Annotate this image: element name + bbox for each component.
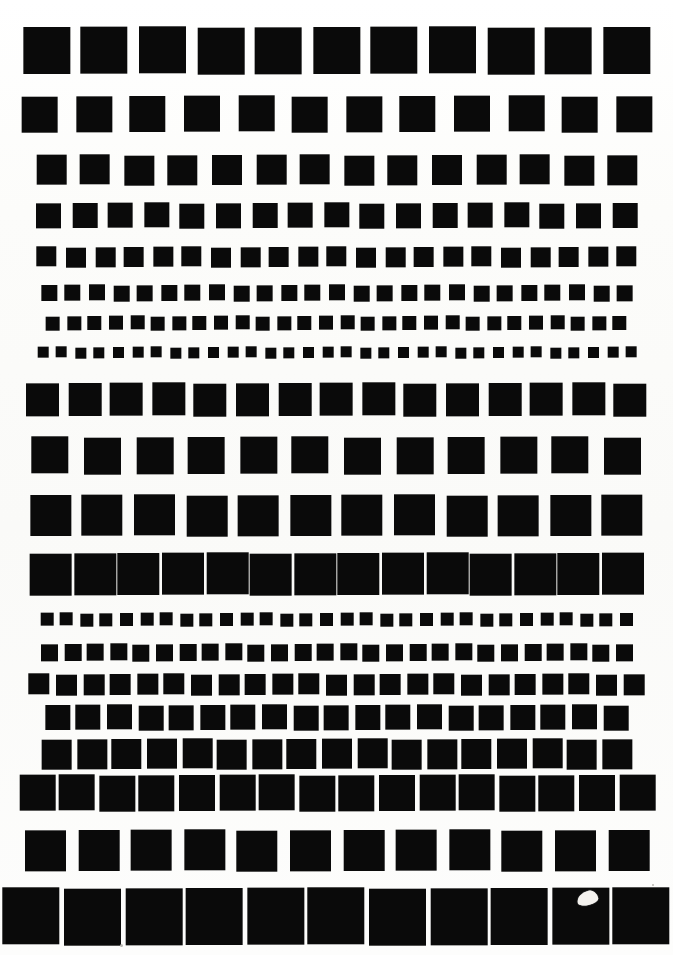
patch — [579, 775, 615, 811]
patch — [448, 437, 485, 474]
patch — [454, 96, 490, 132]
patch — [561, 97, 597, 133]
patch — [612, 316, 626, 330]
patch — [338, 775, 374, 811]
patch — [326, 246, 346, 266]
patch — [230, 705, 255, 730]
patch — [113, 286, 129, 302]
patch — [353, 286, 369, 302]
patch — [291, 97, 327, 133]
patch — [473, 347, 484, 358]
patch — [499, 613, 512, 626]
patch-row — [0, 316, 673, 330]
patch — [530, 346, 541, 357]
patch — [592, 316, 606, 330]
patch-row — [0, 888, 673, 945]
patch — [151, 317, 165, 331]
patch — [616, 644, 633, 661]
patch — [188, 347, 199, 358]
patch — [432, 155, 462, 185]
patch — [19, 775, 55, 811]
patch — [378, 347, 389, 358]
patch — [555, 830, 596, 871]
patch — [329, 284, 345, 300]
patch — [538, 775, 574, 811]
patch — [212, 155, 242, 185]
patch — [132, 347, 143, 358]
patch — [181, 246, 201, 266]
patch — [29, 554, 71, 596]
patch — [126, 888, 183, 945]
patch — [220, 613, 233, 626]
patch — [419, 775, 455, 811]
patch — [30, 495, 71, 536]
patch — [279, 383, 312, 416]
patch — [169, 705, 194, 730]
patch — [496, 285, 512, 301]
patch — [74, 553, 116, 595]
patch — [395, 830, 436, 871]
patch — [539, 204, 564, 229]
patch — [58, 774, 94, 810]
patch — [369, 889, 426, 946]
patch — [466, 317, 480, 331]
patch — [84, 674, 105, 695]
patch — [137, 674, 158, 695]
patch — [568, 673, 589, 694]
patch — [379, 775, 415, 811]
patch — [136, 285, 152, 301]
patch — [449, 706, 474, 731]
patch — [501, 248, 521, 268]
patch — [180, 614, 193, 627]
patch — [471, 246, 491, 266]
patch — [153, 247, 173, 267]
patch — [473, 286, 489, 302]
patch — [576, 203, 601, 228]
patch — [163, 673, 184, 694]
patch — [316, 644, 333, 661]
patch — [447, 496, 488, 537]
patch-row — [0, 705, 673, 730]
patch — [179, 644, 196, 661]
patch — [520, 613, 533, 626]
patch — [624, 674, 645, 695]
patch — [99, 776, 135, 812]
dust-speck-2 — [652, 884, 654, 886]
scanned-page — [0, 0, 673, 955]
patch — [540, 705, 565, 730]
patch — [570, 643, 587, 660]
patch — [144, 202, 169, 227]
patch — [272, 674, 293, 695]
patch — [193, 384, 226, 417]
patch — [290, 830, 331, 871]
patch — [489, 674, 510, 695]
patch — [376, 285, 392, 301]
patch — [420, 613, 433, 626]
patch-row — [0, 644, 673, 661]
patch — [476, 155, 506, 185]
patch — [344, 438, 381, 475]
patch — [36, 155, 66, 185]
patch — [560, 612, 573, 625]
patch — [355, 705, 380, 730]
patch — [108, 203, 133, 228]
patch — [558, 247, 578, 267]
patch — [322, 347, 333, 358]
patch — [424, 285, 440, 301]
patch — [593, 286, 609, 302]
patch — [265, 348, 276, 359]
patch — [359, 204, 384, 229]
patch — [255, 27, 302, 74]
patch — [572, 704, 597, 729]
patch — [497, 739, 527, 769]
patch — [192, 316, 206, 330]
patch — [619, 775, 655, 811]
patch — [64, 285, 80, 301]
patch — [545, 27, 592, 74]
patch — [286, 739, 316, 769]
patch — [571, 317, 585, 331]
dust-speck-1 — [120, 944, 123, 947]
patch — [129, 96, 165, 132]
patch — [604, 706, 629, 731]
patch — [491, 888, 548, 945]
